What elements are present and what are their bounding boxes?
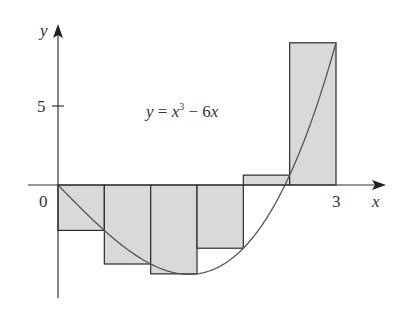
riemann-rectangle: [151, 185, 197, 274]
eq-rest: − 6: [184, 102, 211, 121]
function-equation-label: y = x3 − 6x: [146, 102, 218, 120]
x-tick-label-3: 3: [332, 193, 341, 210]
riemann-rectangle: [290, 43, 336, 185]
eq-equals: =: [154, 102, 172, 121]
eq-x2: x: [211, 102, 219, 121]
y-axis-label: y: [40, 22, 48, 39]
riemann-rectangle: [197, 185, 243, 248]
riemann-sum-plot: [0, 0, 407, 312]
riemann-rectangles: [58, 43, 336, 274]
x-axis-label: x: [372, 193, 380, 210]
riemann-rectangle: [243, 175, 289, 185]
eq-lhs: y: [146, 102, 154, 121]
riemann-rectangle: [104, 185, 150, 264]
x-tick-label-0: 0: [39, 193, 48, 210]
y-tick-label-5: 5: [37, 98, 46, 115]
